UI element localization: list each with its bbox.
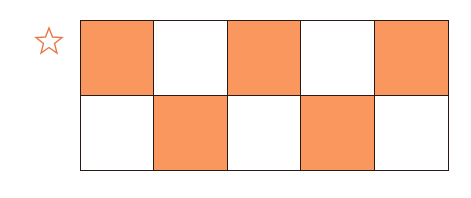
fraction-grid (80, 20, 449, 171)
grid-cell-shaded (81, 21, 154, 96)
grid-cell-unshaded (81, 96, 154, 171)
star-icon (34, 26, 64, 56)
grid-cell-shaded (375, 21, 448, 96)
grid-cell-unshaded (228, 96, 301, 171)
grid-cell-shaded (154, 96, 227, 171)
grid-cell-shaded (301, 96, 374, 171)
grid-cell-shaded (228, 21, 301, 96)
grid-cell-unshaded (375, 96, 448, 171)
grid-cell-unshaded (301, 21, 374, 96)
grid-cell-unshaded (154, 21, 227, 96)
